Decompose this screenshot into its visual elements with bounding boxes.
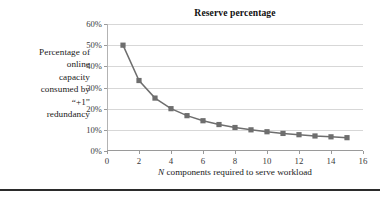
y-tick-label: 20% (72, 104, 102, 114)
series-line-reserve-percentage (107, 24, 363, 151)
x-tick-label: 0 (95, 156, 119, 166)
data-point-marker (232, 125, 237, 130)
x-tick-label: 10 (255, 156, 279, 166)
x-tick-label: 4 (159, 156, 183, 166)
data-point-marker (200, 118, 205, 123)
x-tick-mark (363, 151, 364, 154)
x-tick-mark (267, 151, 268, 154)
x-tick-mark (139, 151, 140, 154)
y-axis-label-line: capacity (4, 71, 90, 83)
data-point-marker (312, 133, 317, 138)
x-tick-label: 6 (191, 156, 215, 166)
x-tick-label: 8 (223, 156, 247, 166)
footer-divider (0, 189, 380, 191)
data-point-marker (216, 122, 221, 127)
x-tick-mark (171, 151, 172, 154)
y-tick-label: 10% (72, 125, 102, 135)
data-point-marker (344, 135, 349, 140)
data-point-marker (136, 78, 141, 83)
y-tick-label: 50% (72, 40, 102, 50)
data-point-marker (264, 129, 269, 134)
data-point-marker (168, 106, 173, 111)
y-tick-label: 30% (72, 83, 102, 93)
data-point-marker (296, 132, 301, 137)
y-tick-label: 0% (72, 146, 102, 156)
x-tick-label: 16 (351, 156, 375, 166)
x-tick-label: 14 (319, 156, 343, 166)
chart-figure: Reserve percentage Percentage of online … (0, 0, 380, 198)
x-axis-label-text: components required to serve workload (164, 167, 312, 177)
x-tick-mark (203, 151, 204, 154)
x-axis-label: N components required to serve workload (107, 167, 363, 177)
x-tick-mark (299, 151, 300, 154)
data-point-marker (120, 43, 125, 48)
series-path (123, 45, 347, 138)
x-tick-mark (331, 151, 332, 154)
x-tick-mark (235, 151, 236, 154)
x-tick-label: 12 (287, 156, 311, 166)
data-point-marker (328, 134, 333, 139)
chart-title: Reserve percentage (107, 7, 363, 18)
x-tick-mark (107, 151, 108, 154)
y-tick-label: 60% (72, 19, 102, 29)
y-tick-label: 40% (72, 61, 102, 71)
data-point-marker (152, 95, 157, 100)
data-point-marker (280, 131, 285, 136)
plot-area: 0%10%20%30%40%50%60% 0246810121416 (107, 24, 363, 151)
x-tick-label: 2 (127, 156, 151, 166)
data-point-marker (184, 113, 189, 118)
data-point-marker (248, 127, 253, 132)
